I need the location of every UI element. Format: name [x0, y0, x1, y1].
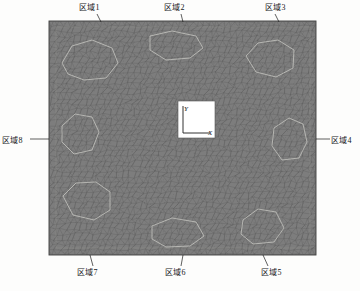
mesh-figure: 区域1区域2区域3区域4区域5区域6区域7区域8 Y X	[0, 0, 360, 291]
zone-1-label: 区域1	[79, 3, 100, 13]
zone-4-label: 区域4	[331, 136, 352, 146]
axis-label-y: Y	[184, 104, 188, 114]
zone-6-label: 区域6	[165, 268, 186, 278]
zone-5-label: 区域5	[261, 268, 282, 278]
axis-label-x: X	[208, 128, 212, 138]
zone-6-leader-line	[181, 255, 183, 266]
zone-5-leader-line	[263, 255, 268, 266]
figure-canvas	[0, 0, 360, 291]
zone-8-label: 区域8	[2, 136, 23, 146]
zone-2-label: 区域2	[164, 3, 185, 13]
zone-3-label: 区域3	[265, 3, 286, 13]
zone-7-label: 区域7	[77, 268, 98, 278]
zone-7-leader-line	[90, 255, 93, 266]
